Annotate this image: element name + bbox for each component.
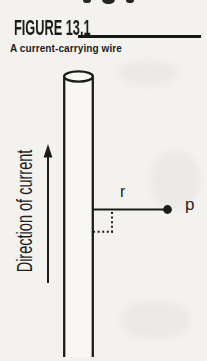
current-arrow-head [44, 144, 53, 158]
wire-body [65, 77, 92, 357]
wire-top-ellipse [64, 71, 93, 81]
distance-r-label: r [120, 184, 125, 200]
direction-of-current-label: Direction of current [13, 138, 37, 283]
point-p-label: p [185, 196, 194, 213]
point-p-dot [163, 205, 172, 214]
textbook-figure-page: FIGURE 13.1 A current-carrying wire Dire… [0, 0, 207, 361]
